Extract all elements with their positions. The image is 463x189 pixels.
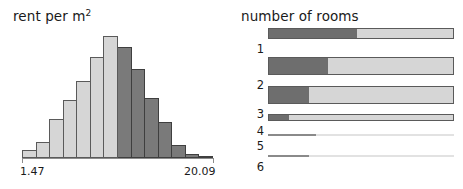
histogram-x-axis: [22, 158, 214, 159]
spineplot-bar-highlight-segment: [269, 87, 309, 103]
spineplot-panel: number of rooms 123456: [231, 0, 463, 189]
histogram-bar[interactable]: [22, 150, 37, 158]
spineplot-bar[interactable]: [268, 155, 454, 157]
histogram-bar[interactable]: [171, 145, 186, 158]
spineplot-row-label: 3: [254, 107, 264, 121]
spineplot-bar[interactable]: [268, 28, 454, 39]
histogram-panel: rent per m2 1.47 20.09: [0, 0, 231, 189]
histogram-bar[interactable]: [131, 69, 146, 158]
histogram-axis-tick-right: [213, 158, 214, 163]
histogram-bar[interactable]: [117, 47, 132, 158]
histogram-axis-min-label: 1.47: [20, 165, 45, 178]
spineplot-bar-highlight-segment: [268, 134, 316, 136]
spineplot-bar[interactable]: [268, 86, 454, 104]
spineplot-bar-highlight-segment: [269, 58, 328, 74]
spineplot-bar[interactable]: [268, 134, 454, 136]
histogram-bar[interactable]: [158, 122, 173, 158]
histogram-bar[interactable]: [76, 81, 91, 158]
histogram-axis-max-label: 20.09: [184, 165, 216, 178]
histogram-plot-area: [22, 36, 212, 158]
spineplot-bar[interactable]: [268, 57, 454, 75]
histogram-axis-tick-left: [22, 158, 23, 163]
histogram-bar[interactable]: [103, 36, 118, 158]
spineplot-bar-highlight-segment: [269, 29, 357, 38]
spineplot-row-label: 6: [254, 160, 264, 174]
spineplot-row-label: 5: [254, 139, 264, 153]
histogram-title-superscript: 2: [86, 8, 92, 18]
spineplot-plot-area: 123456: [231, 0, 463, 189]
spineplot-bar-highlight-segment: [268, 155, 309, 157]
histogram-bar[interactable]: [36, 142, 51, 158]
histogram-bar[interactable]: [49, 119, 64, 158]
spineplot-row-label: 4: [254, 124, 264, 138]
spineplot-bar[interactable]: [268, 114, 454, 121]
spineplot-row-label: 2: [254, 78, 264, 92]
histogram-title: rent per m2: [13, 8, 91, 24]
spineplot-row-label: 1: [254, 42, 264, 56]
spineplot-bar-highlight-segment: [269, 115, 289, 120]
histogram-bar[interactable]: [198, 156, 213, 158]
histogram-bar[interactable]: [144, 98, 159, 158]
histogram-bar[interactable]: [90, 57, 105, 158]
histogram-bar[interactable]: [63, 100, 78, 158]
histogram-title-text: rent per m: [13, 8, 86, 24]
histogram-bar[interactable]: [185, 154, 200, 158]
